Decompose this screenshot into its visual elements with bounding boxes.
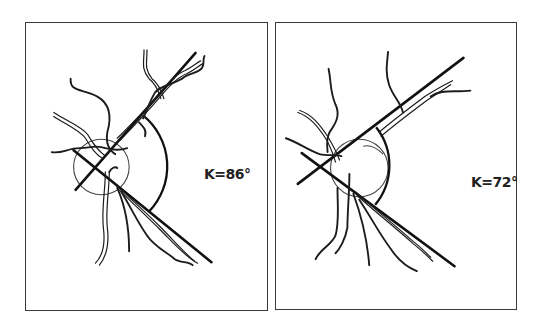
diagram-panel-left: ꓗ=86° — [25, 22, 268, 311]
vessel — [120, 64, 202, 140]
vessel — [95, 172, 105, 263]
superior-axis-line — [76, 53, 196, 190]
vessel — [139, 122, 145, 136]
vessel — [143, 50, 160, 99]
diagram-panel-right: ꓗ=72° — [275, 22, 517, 310]
angle-label-left: ꓗ=86° — [204, 166, 251, 182]
optic-disc-outline — [331, 139, 389, 197]
vessel — [387, 52, 403, 112]
cup-outline — [363, 146, 383, 154]
vessel — [52, 146, 127, 152]
vessel — [143, 56, 204, 118]
vessel — [300, 110, 340, 160]
angle-label-right: ꓗ=72° — [471, 174, 518, 190]
angle-arc — [143, 115, 167, 211]
inferior-axis-line — [74, 150, 212, 262]
vessel — [316, 188, 338, 259]
vessel — [327, 69, 338, 152]
vessel — [109, 167, 117, 172]
angle-arc — [375, 127, 389, 204]
superior-axis-line — [298, 58, 464, 184]
vessel — [431, 91, 471, 97]
vessel-drawing-right — [276, 23, 516, 309]
